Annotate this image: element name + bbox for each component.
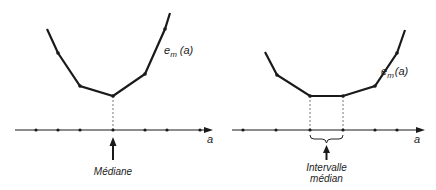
curve-em-a	[47, 13, 170, 96]
annotation-median: médian	[310, 173, 343, 184]
curve-label: em(a)	[381, 65, 409, 80]
figure-median: em(a) a Médiane	[15, 13, 213, 177]
curve-em-a	[265, 30, 405, 96]
curve-label: em(a)	[164, 44, 194, 59]
axis-label-a: a	[207, 133, 213, 145]
interval-brace	[310, 135, 343, 143]
arrow-up-icon	[323, 145, 330, 153]
annotation-intervalle: Intervalle	[306, 162, 347, 173]
figure-median-interval: em(a) a Intervalle médian	[232, 30, 425, 184]
annotation-mediane: Médiane	[94, 166, 133, 177]
axis-label-a: a	[414, 133, 420, 145]
median-diagram: em(a) a Médiane em(a) a	[0, 0, 436, 190]
arrow-up-icon	[110, 137, 117, 146]
